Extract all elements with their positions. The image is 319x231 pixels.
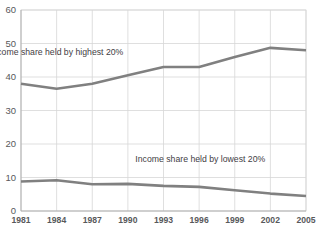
x-tick-label-1981: 1981 bbox=[11, 215, 30, 225]
x-tick-label-2005: 2005 bbox=[296, 215, 315, 225]
x-axis-tick-labels: 198119841987199019931996199920022005 bbox=[11, 215, 315, 225]
chart-canvas: 0102030405060 19811984198719901993199619… bbox=[0, 0, 319, 231]
series-annotation-highest-20: Income share held by highest 20% bbox=[0, 47, 124, 57]
series-annotation-lowest-20: Income share held by lowest 20% bbox=[135, 154, 265, 164]
x-tick-label-1990: 1990 bbox=[118, 215, 137, 225]
y-tick-label-60: 60 bbox=[5, 4, 16, 15]
y-axis-tick-labels: 0102030405060 bbox=[5, 4, 16, 216]
x-tick-label-1984: 1984 bbox=[47, 215, 66, 225]
y-tick-label-30: 30 bbox=[5, 105, 16, 116]
x-tick-label-1999: 1999 bbox=[225, 215, 244, 225]
x-tick-label-1996: 1996 bbox=[190, 215, 209, 225]
x-tick-label-2002: 2002 bbox=[261, 215, 280, 225]
x-tick-label-1993: 1993 bbox=[154, 215, 173, 225]
y-tick-label-40: 40 bbox=[5, 71, 16, 82]
y-tick-label-10: 10 bbox=[5, 172, 16, 183]
income-share-line-chart: 0102030405060 19811984198719901993199619… bbox=[0, 0, 319, 231]
y-tick-label-20: 20 bbox=[5, 138, 16, 149]
x-tick-label-1987: 1987 bbox=[83, 215, 102, 225]
